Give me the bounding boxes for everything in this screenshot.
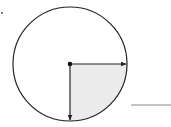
center-point bbox=[68, 62, 73, 67]
marker-dot bbox=[1, 12, 3, 14]
circle-sector-diagram bbox=[0, 0, 171, 127]
shaded-sector bbox=[70, 64, 127, 121]
